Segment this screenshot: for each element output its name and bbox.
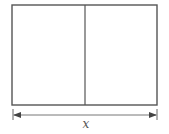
diagram-canvas: x	[0, 0, 169, 134]
dimension-label: x	[83, 117, 90, 131]
